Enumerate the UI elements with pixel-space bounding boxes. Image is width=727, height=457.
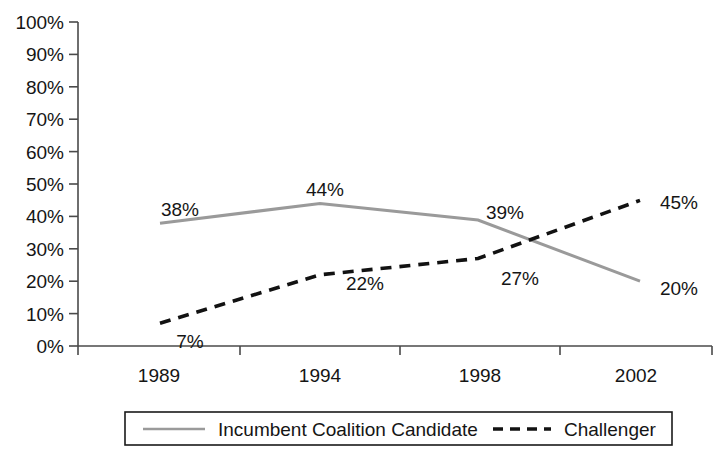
x-tick-label-1989: 1989: [138, 365, 180, 386]
legend-label-challenger: Challenger: [564, 419, 657, 440]
y-tick-label-30: 30%: [26, 239, 64, 260]
y-tick-label-80: 80%: [26, 77, 64, 98]
y-axis: 100% 90% 80% 70% 60% 50% 40% 30% 20% 10%…: [15, 12, 78, 357]
x-tick-label-2002: 2002: [615, 365, 657, 386]
y-tick-label-0: 0%: [37, 336, 65, 357]
y-tick-label-40: 40%: [26, 206, 64, 227]
y-tick-label-10: 10%: [26, 304, 64, 325]
challenger-line: [160, 200, 640, 323]
data-label-incumbent-1989: 38%: [161, 199, 199, 220]
data-label-challenger-1989: 7%: [176, 331, 204, 352]
data-label-incumbent-1994: 44%: [306, 179, 344, 200]
data-label-challenger-1998: 27%: [501, 268, 539, 289]
incumbent-line: [160, 204, 640, 282]
data-label-incumbent-1998: 39%: [486, 202, 524, 223]
y-tick-label-20: 20%: [26, 271, 64, 292]
chart-canvas: 100% 90% 80% 70% 60% 50% 40% 30% 20% 10%…: [0, 0, 727, 457]
y-tick-label-60: 60%: [26, 142, 64, 163]
series-incumbent-coalition-candidate: [160, 204, 640, 282]
data-label-challenger-1994: 22%: [346, 273, 384, 294]
x-tick-label-1994: 1994: [299, 365, 342, 386]
y-tick-label-70: 70%: [26, 109, 64, 130]
legend-label-incumbent: Incumbent Coalition Candidate: [218, 419, 478, 440]
x-tick-label-1998: 1998: [459, 365, 501, 386]
x-axis: 1989 1994 1998 2002: [78, 346, 712, 386]
data-label-challenger-2002: 45%: [660, 192, 698, 213]
y-tick-label-100: 100%: [15, 12, 64, 33]
y-tick-label-90: 90%: [26, 44, 64, 65]
data-label-incumbent-2002: 20%: [660, 278, 698, 299]
series-challenger: [160, 200, 640, 323]
y-tick-label-50: 50%: [26, 174, 64, 195]
line-chart: 100% 90% 80% 70% 60% 50% 40% 30% 20% 10%…: [0, 0, 727, 457]
chart-legend: Incumbent Coalition Candidate Challenger: [125, 412, 672, 445]
data-labels-incumbent: 38% 44% 39% 20%: [161, 179, 698, 299]
